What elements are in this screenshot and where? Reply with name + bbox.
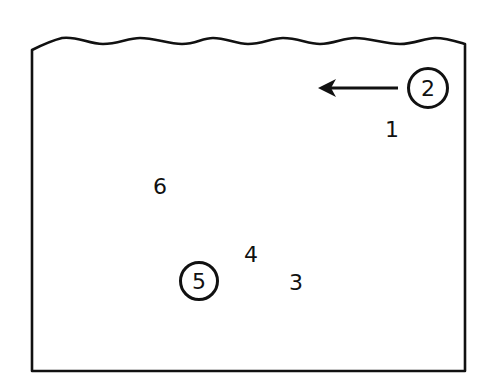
label-5-text: 5 bbox=[192, 269, 206, 294]
label-6: 6 bbox=[153, 176, 167, 198]
circled-label-5: 5 bbox=[179, 261, 219, 301]
label-2-text: 2 bbox=[421, 76, 435, 101]
label-3: 3 bbox=[289, 272, 303, 294]
diagram-canvas bbox=[0, 0, 487, 384]
label-4: 4 bbox=[244, 244, 258, 266]
container-outline bbox=[32, 38, 465, 371]
circled-label-2: 2 bbox=[407, 67, 449, 109]
label-1: 1 bbox=[385, 119, 399, 141]
